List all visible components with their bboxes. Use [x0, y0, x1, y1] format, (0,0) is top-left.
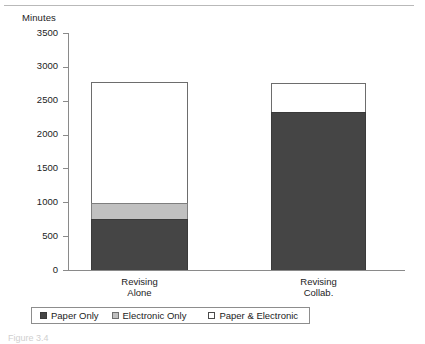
- bar-segment-paper-only[interactable]: [271, 112, 366, 270]
- x-axis-label-2: RevisingCollab.: [271, 276, 366, 298]
- x-axis-label-line: Alone: [91, 287, 188, 298]
- legend-swatch-paper-and-electronic-icon: [208, 312, 215, 319]
- legend-label-electronic-only: Electronic Only: [123, 310, 187, 321]
- bar-1[interactable]: [91, 82, 188, 270]
- bar-segment-paper-only[interactable]: [91, 219, 188, 270]
- bar-segment-electronic-only[interactable]: [91, 203, 188, 219]
- legend-item-paper-and-electronic[interactable]: Paper & Electronic: [208, 310, 298, 321]
- legend-item-electronic-only[interactable]: Electronic Only: [112, 310, 187, 321]
- x-axis-label-line: Revising: [271, 276, 366, 287]
- bar-segment-paper-and-electronic[interactable]: [271, 83, 366, 112]
- chart-legend: Paper Only Electronic Only Paper & Elect…: [31, 307, 310, 324]
- bar-segment-paper-and-electronic[interactable]: [91, 82, 188, 203]
- x-axis-label-line: Revising: [91, 276, 188, 287]
- y-axis-tick-mark: [63, 270, 69, 271]
- legend-label-paper-only: Paper Only: [51, 310, 99, 321]
- figure-caption: Figure 3.4: [8, 333, 49, 343]
- legend-item-paper-only[interactable]: Paper Only: [40, 310, 99, 321]
- x-axis-label-line: Collab.: [271, 287, 366, 298]
- x-axis-label-1: RevisingAlone: [91, 276, 188, 298]
- legend-swatch-electronic-only-icon: [112, 312, 119, 319]
- bar-2[interactable]: [271, 83, 366, 270]
- figure-container: Minutes 3500300025002000150010005000 Rev…: [0, 0, 425, 344]
- x-axis-line: [68, 270, 405, 271]
- chart-plot-area: Minutes 3500300025002000150010005000 Rev…: [0, 0, 425, 300]
- bars-layer: [0, 0, 425, 270]
- legend-swatch-paper-only-icon: [40, 312, 47, 319]
- legend-label-paper-and-electronic: Paper & Electronic: [219, 310, 298, 321]
